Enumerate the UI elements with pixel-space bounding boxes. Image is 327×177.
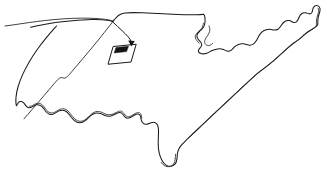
canvas-background	[0, 0, 327, 177]
map-figure	[0, 0, 327, 177]
outline-map-svg	[0, 0, 327, 177]
